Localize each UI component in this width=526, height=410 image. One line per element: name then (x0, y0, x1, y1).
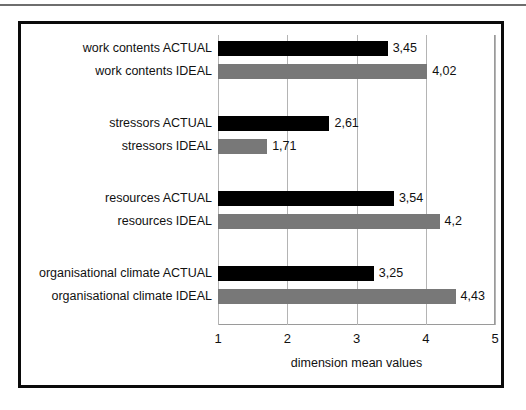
x-tick-2: 2 (272, 331, 302, 346)
page-top-rule (0, 4, 526, 6)
bar (218, 139, 267, 154)
figure-frame: work contents ACTUALwork contents IDEALs… (18, 21, 504, 388)
bar-value-label: 2,61 (334, 116, 358, 131)
x-axis-title: dimension mean values (218, 356, 495, 370)
bar-value-label: 1,71 (272, 139, 296, 154)
x-tick-1: 1 (203, 331, 233, 346)
category-label: organisational climate ACTUAL (29, 266, 212, 281)
bar-value-label: 4,02 (432, 64, 456, 79)
x-tick-5: 5 (480, 331, 510, 346)
bar (218, 266, 374, 281)
bar-value-label: 4,43 (461, 289, 485, 304)
bar-value-label: 3,54 (399, 191, 423, 206)
bar (218, 214, 440, 229)
x-tick-3: 3 (342, 331, 372, 346)
category-label: stressors IDEAL (29, 139, 212, 154)
bar (218, 64, 427, 79)
category-label: work contents ACTUAL (29, 41, 212, 56)
bar (218, 41, 388, 56)
bar-chart: work contents ACTUALwork contents IDEALs… (21, 24, 501, 385)
category-label: stressors ACTUAL (29, 116, 212, 131)
bar (218, 191, 394, 206)
bar-value-label: 3,45 (393, 41, 417, 56)
gridline-5 (495, 35, 496, 325)
category-label: resources IDEAL (29, 214, 212, 229)
category-label: work contents IDEAL (29, 64, 212, 79)
category-label: resources ACTUAL (29, 191, 212, 206)
bar (218, 289, 456, 304)
bar-value-label: 3,25 (379, 266, 403, 281)
bar (218, 116, 329, 131)
category-label: organisational climate IDEAL (29, 289, 212, 304)
bar-value-label: 4,2 (445, 214, 462, 229)
x-tick-4: 4 (411, 331, 441, 346)
